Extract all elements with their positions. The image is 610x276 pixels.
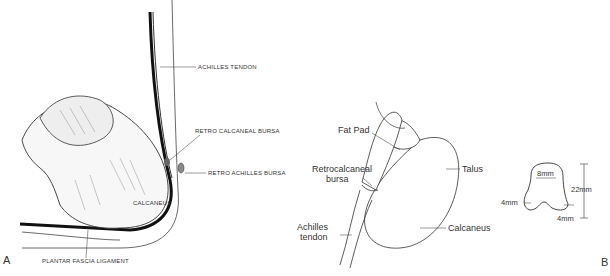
label-achilles-1: Achilles <box>297 222 328 232</box>
label-calcaneus-a: CALCANEUS <box>133 200 171 206</box>
label-achilles-2: tendon <box>300 232 328 242</box>
panel-letter-a: A <box>3 254 10 266</box>
label-retro-calcaneal-bursa: RETRO CALCANEAL BURSA <box>195 128 280 134</box>
dim-right-base: 4mm <box>557 214 574 224</box>
label-achilles-tendon: ACHILLES TENDON <box>198 64 257 70</box>
label-plantar-fascia: PLANTAR FASCIA LIGAMENT <box>42 258 129 264</box>
panel-letter-b: B <box>601 256 608 268</box>
label-talus: Talus <box>462 164 483 174</box>
dim-height: 22mm <box>571 185 592 195</box>
label-retrocalcaneal-2: bursa <box>326 174 349 184</box>
dim-width-top: 8mm <box>537 169 554 179</box>
label-fat-pad: Fat Pad <box>338 125 370 135</box>
label-calcaneus-b: Calcaneus <box>448 223 491 233</box>
dim-left-base: 4mm <box>501 198 518 208</box>
label-retro-achilles-bursa: RETRO ACHILLES BURSA <box>208 170 286 176</box>
label-retrocalcaneal-1: Retrocalcaneal <box>312 164 372 174</box>
